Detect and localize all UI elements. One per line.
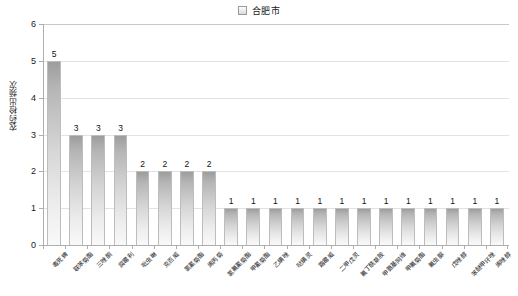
- bar[interactable]: [490, 208, 504, 245]
- x-axis-label-cell: 甲氨基阿维: [375, 249, 397, 296]
- x-axis-label-cell: 二甲戊灵: [331, 249, 353, 296]
- bar-slot: 1: [464, 24, 486, 245]
- bar-value-label: 1: [442, 196, 464, 206]
- bar-value-label: 2: [198, 159, 220, 169]
- bar-slot: 3: [109, 24, 131, 245]
- bar[interactable]: [335, 208, 349, 245]
- bar-slot: 1: [375, 24, 397, 245]
- x-axis-label-cell: 腐霉利: [109, 249, 131, 296]
- x-axis-label-cell: 联苯菊酯: [65, 249, 87, 296]
- bar-series: 533322221111111111111: [43, 24, 508, 245]
- bar[interactable]: [136, 171, 150, 245]
- y-axis-tick-label: 0: [31, 240, 36, 250]
- bar[interactable]: [202, 171, 216, 245]
- bar-slot: 1: [309, 24, 331, 245]
- bar[interactable]: [446, 208, 460, 245]
- bar-value-label: 1: [375, 196, 397, 206]
- bar[interactable]: [357, 208, 371, 245]
- legend-swatch-icon: [238, 6, 247, 15]
- y-axis-tick-label: 5: [31, 56, 36, 66]
- chart-legend: 合肥市: [0, 4, 518, 17]
- bar-slot: 3: [65, 24, 87, 245]
- bar-value-label: 1: [287, 196, 309, 206]
- y-axis-labels: 0123456: [0, 0, 43, 245]
- x-axis-label-cell: 氯氰菊酯: [176, 249, 198, 296]
- y-axis-tick-label: 1: [31, 203, 36, 213]
- y-axis-tick-label: 6: [31, 19, 36, 29]
- bar-value-label: 1: [353, 196, 375, 206]
- bar-value-label: 3: [87, 123, 109, 133]
- bar[interactable]: [91, 135, 105, 246]
- bar-value-label: 1: [264, 196, 286, 206]
- bar-slot: 2: [198, 24, 220, 245]
- bar[interactable]: [313, 208, 327, 245]
- x-axis-label-cell: 乙螨唑: [264, 249, 286, 296]
- bar-value-label: 3: [109, 123, 131, 133]
- y-axis-tick-label: 4: [31, 93, 36, 103]
- bar-value-label: 5: [43, 49, 65, 59]
- x-axis-label-cell: 烯唑醇: [486, 249, 508, 296]
- bar-slot: 1: [242, 24, 264, 245]
- bar-slot: 3: [87, 24, 109, 245]
- x-axis-labels: 毒死蜱联苯菊酯三唑酮腐霉利吡虫啉克百威氯氰菊酯烯丙菊氯氟氰菊酯甲氰菊酯乙螨唑哒螨…: [43, 249, 508, 296]
- x-axis-label-cell: 烯丙菊: [198, 249, 220, 296]
- x-axis-label-cell: 哒螨灵: [287, 249, 309, 296]
- x-axis-label-cell: 氯氟氰菊酯: [220, 249, 242, 296]
- bar-slot: 2: [154, 24, 176, 245]
- bar-chart: 合肥市 农药检出频次 0123456 533322221111111111111…: [0, 0, 518, 296]
- bar[interactable]: [401, 208, 415, 245]
- bar-value-label: 1: [397, 196, 419, 206]
- bar-value-label: 1: [464, 196, 486, 206]
- bar-value-label: 1: [242, 196, 264, 206]
- bar-slot: 1: [287, 24, 309, 245]
- bar-slot: 1: [353, 24, 375, 245]
- x-axis-label-cell: 氟虫脲: [419, 249, 441, 296]
- bar-slot: 5: [43, 24, 65, 245]
- bar-slot: 1: [442, 24, 464, 245]
- x-axis-label-cell: 霜霉威: [309, 249, 331, 296]
- x-axis-label-cell: 毒死蜱: [43, 249, 65, 296]
- bar-value-label: 2: [154, 159, 176, 169]
- y-axis-tick-label: 2: [31, 166, 36, 176]
- bar-slot: 1: [331, 24, 353, 245]
- bar-value-label: 1: [309, 196, 331, 206]
- x-axis-label-cell: 克百威: [154, 249, 176, 296]
- x-axis-label-cell: 苯醚甲环唑: [464, 249, 486, 296]
- bar[interactable]: [269, 208, 283, 245]
- bar-slot: 1: [220, 24, 242, 245]
- y-axis-tick-label: 3: [31, 130, 36, 140]
- bar-value-label: 1: [486, 196, 508, 206]
- x-axis-tick-label: 烯唑醇: [493, 250, 513, 270]
- bar[interactable]: [291, 208, 305, 245]
- x-axis-label-cell: 吡虫啉: [132, 249, 154, 296]
- bar[interactable]: [69, 135, 83, 246]
- bar-slot: 2: [176, 24, 198, 245]
- x-axis-label-cell: 三唑酮: [87, 249, 109, 296]
- x-axis-label-cell: 戊唑醇: [442, 249, 464, 296]
- bar-value-label: 1: [331, 196, 353, 206]
- bar[interactable]: [379, 208, 393, 245]
- x-axis-label-cell: 甲氟菊酯: [397, 249, 419, 296]
- bar-value-label: 1: [419, 196, 441, 206]
- bar-value-label: 3: [65, 123, 87, 133]
- x-axis-label-cell: 氟丁酰草胺: [353, 249, 375, 296]
- bar-value-label: 2: [176, 159, 198, 169]
- bar[interactable]: [468, 208, 482, 245]
- bar-slot: 1: [419, 24, 441, 245]
- bar[interactable]: [180, 171, 194, 245]
- bar-value-label: 1: [220, 196, 242, 206]
- legend-label: 合肥市: [252, 4, 280, 17]
- bar[interactable]: [224, 208, 238, 245]
- bar[interactable]: [47, 61, 61, 245]
- bar-slot: 1: [264, 24, 286, 245]
- x-axis-label-cell: 甲氰菊酯: [242, 249, 264, 296]
- bar-slot: 1: [397, 24, 419, 245]
- bar[interactable]: [158, 171, 172, 245]
- bar[interactable]: [246, 208, 260, 245]
- bar-value-label: 2: [132, 159, 154, 169]
- bar[interactable]: [424, 208, 438, 245]
- bar-slot: 2: [132, 24, 154, 245]
- bar[interactable]: [114, 135, 128, 246]
- bar-slot: 1: [486, 24, 508, 245]
